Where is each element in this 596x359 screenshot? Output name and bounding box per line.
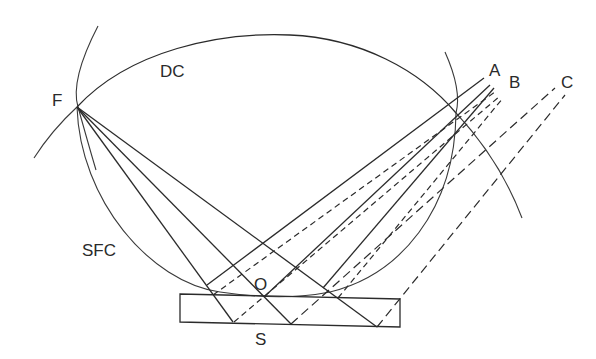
label-s: S	[255, 330, 266, 349]
label-dc: DC	[160, 62, 185, 81]
label-a: A	[489, 61, 501, 80]
left-arc-lower	[34, 107, 77, 158]
ray-a-1	[207, 78, 484, 285]
label-o: O	[254, 275, 267, 294]
ray-f-3	[77, 107, 377, 327]
right-arc	[445, 52, 458, 113]
ray-b-1	[213, 92, 495, 295]
label-c: C	[561, 73, 573, 92]
sample-slab	[180, 294, 400, 327]
label-sfc: SFC	[82, 241, 116, 260]
diffractometer-circle-arc	[77, 35, 456, 113]
diagram-canvas: F DC A B C SFC O S	[0, 0, 596, 359]
ray-f-1	[77, 107, 233, 322]
right-arc-lower	[456, 113, 522, 218]
focusing-geometry-diagram: F DC A B C SFC O S	[0, 0, 596, 359]
ray-b-3	[338, 98, 503, 298]
ray-b-2	[234, 96, 500, 322]
label-b: B	[509, 73, 520, 92]
label-f: F	[52, 91, 62, 110]
left-arc	[76, 26, 98, 170]
ray-a-3	[323, 88, 494, 288]
sample-focusing-circle	[77, 107, 456, 297]
ray-a-2	[264, 85, 490, 297]
